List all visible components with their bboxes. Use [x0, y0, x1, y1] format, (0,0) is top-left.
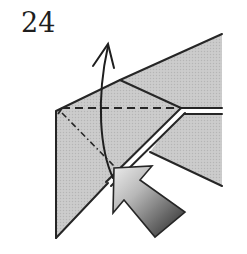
origami-diagram — [0, 0, 247, 254]
